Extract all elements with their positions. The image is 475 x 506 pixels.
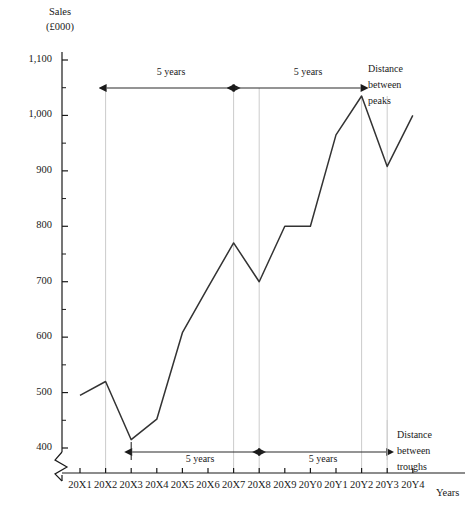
y-axis-title-line1: Sales: [20, 6, 100, 17]
y-tick-label: 600: [8, 330, 52, 341]
y-axis: [55, 52, 68, 481]
annotation-note-troughs-line3: troughs: [397, 460, 427, 473]
data-series-line: [80, 96, 413, 440]
y-tick-label: 1,100: [8, 53, 52, 64]
annotation-label-peaks-span-2: 5 years: [277, 66, 339, 77]
annotation-label-troughs-span-2: 5 years: [292, 453, 354, 464]
annotation-label-troughs-span-1: 5 years: [169, 453, 231, 464]
y-tick-label: 900: [8, 164, 52, 175]
annotation-note-peaks-line1: Distance: [368, 62, 403, 75]
annotation-note-troughs-line1: Distance: [397, 428, 432, 441]
x-tick-label: 20Y4: [396, 479, 430, 490]
y-axis-title-line2: (£000): [20, 21, 100, 32]
x-axis-title: Years: [436, 487, 459, 498]
y-tick-label: 700: [8, 275, 52, 286]
y-tick-label: 500: [8, 386, 52, 397]
annotation-label-peaks-span-1: 5 years: [140, 66, 202, 77]
y-tick-label: 1,000: [8, 108, 52, 119]
annotation-note-peaks-line3: peaks: [368, 94, 391, 107]
y-tick-label: 400: [8, 441, 52, 452]
guide-lines: [106, 88, 388, 473]
annotation-note-peaks-line2: between: [368, 78, 401, 91]
annotation-note-troughs-line2: between: [397, 444, 430, 457]
y-tick-label: 800: [8, 219, 52, 230]
annotation-arrows: [107, 88, 388, 460]
chart-canvas: Sales (£000) Years 5 years 5 years 5 yea…: [0, 0, 475, 506]
